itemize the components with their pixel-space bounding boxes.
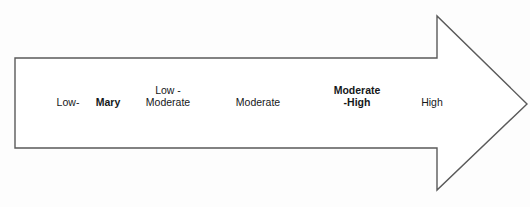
scale-label-low: Low-: [57, 96, 80, 108]
scale-label-low-moderate: Low - Moderate: [146, 84, 190, 109]
scale-label-moderate-high: Moderate -High: [334, 84, 381, 109]
scale-label-low-moderate-line-1: Low -: [146, 84, 190, 96]
scale-label-moderate: Moderate: [236, 96, 280, 108]
scale-label-moderate-high-line-2: -High: [334, 96, 381, 108]
scale-label-moderate-high-line-1: Moderate: [334, 84, 381, 96]
arrow-scale-diagram: Low- Mary Low - Moderate Moderate Modera…: [0, 0, 530, 207]
scale-label-mary-line-1: Mary: [96, 96, 121, 108]
scale-label-group: Low- Mary Low - Moderate Moderate Modera…: [0, 0, 530, 207]
scale-label-high: High: [421, 96, 443, 108]
scale-label-low-moderate-line-2: Moderate: [146, 96, 190, 108]
scale-label-low-line-1: Low-: [57, 96, 80, 108]
scale-label-high-line-1: High: [421, 96, 443, 108]
scale-label-mary: Mary: [96, 96, 121, 108]
scale-label-moderate-line-1: Moderate: [236, 96, 280, 108]
